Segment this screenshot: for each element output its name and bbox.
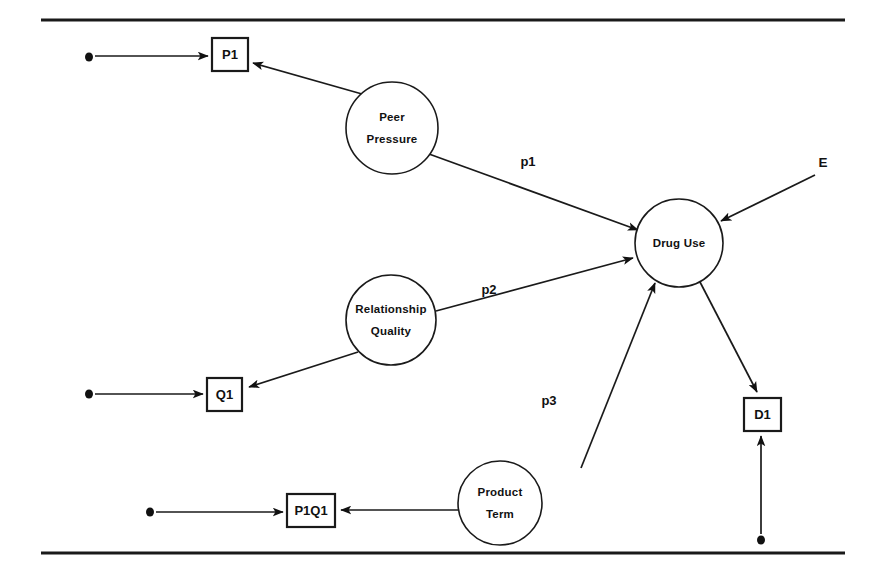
disturbance-label-e: E xyxy=(818,155,827,170)
edge-group xyxy=(95,56,815,534)
latent-node-drug-use[interactable]: Drug Use xyxy=(635,199,723,287)
latent-node-product-term[interactable]: Product Term xyxy=(458,461,542,545)
latent-node-peer-pressure[interactable]: Peer Pressure xyxy=(346,82,438,174)
edge-disturbance-to-drug-use xyxy=(721,175,815,221)
product-term-circle[interactable] xyxy=(458,461,542,545)
path-label-p3: p3 xyxy=(541,393,556,408)
edge-relationship-quality-to-drug-use xyxy=(436,258,633,311)
observed-node-p1[interactable]: P1 xyxy=(212,38,248,71)
path-label-p2: p2 xyxy=(481,282,496,297)
product-term-label-line1: Product xyxy=(478,486,523,498)
product-term-label-line2: Term xyxy=(486,508,514,520)
path-diagram-figure: P1 Q1 P1Q1 D1 Peer Pressure Drug Use Rel… xyxy=(0,0,876,582)
path-label-p1: p1 xyxy=(520,154,535,169)
p1q1-residual-dot xyxy=(146,507,154,516)
drug-use-label-line1: Drug Use xyxy=(653,237,706,249)
peer-pressure-label-line1: Peer xyxy=(379,111,405,123)
observed-node-p1q1[interactable]: P1Q1 xyxy=(287,494,335,527)
edge-product-term-to-drug-use xyxy=(581,283,655,468)
p1-box-label: P1 xyxy=(222,47,238,62)
observed-node-q1[interactable]: Q1 xyxy=(207,378,242,411)
p1q1-box-label: P1Q1 xyxy=(294,503,327,518)
d1-residual-dot xyxy=(757,535,765,544)
relationship-quality-label-line2: Quality xyxy=(371,325,412,337)
peer-pressure-label-line2: Pressure xyxy=(367,133,418,145)
relationship-quality-label-line1: Relationship xyxy=(355,303,426,315)
latent-node-relationship-quality[interactable]: Relationship Quality xyxy=(346,275,436,365)
edge-peer-pressure-to-p1 xyxy=(253,63,362,94)
q1-residual-dot xyxy=(85,389,93,398)
peer-pressure-circle[interactable] xyxy=(346,82,438,174)
edge-relationship-quality-to-q1 xyxy=(249,352,358,387)
d1-box-label: D1 xyxy=(754,407,771,422)
q1-box-label: Q1 xyxy=(216,387,233,402)
observed-node-d1[interactable]: D1 xyxy=(744,398,781,431)
edge-drug-use-to-d1 xyxy=(700,282,757,392)
relationship-quality-circle[interactable] xyxy=(346,275,436,365)
p1-residual-dot xyxy=(85,52,93,61)
diagram-canvas: P1 Q1 P1Q1 D1 Peer Pressure Drug Use Rel… xyxy=(0,0,876,582)
